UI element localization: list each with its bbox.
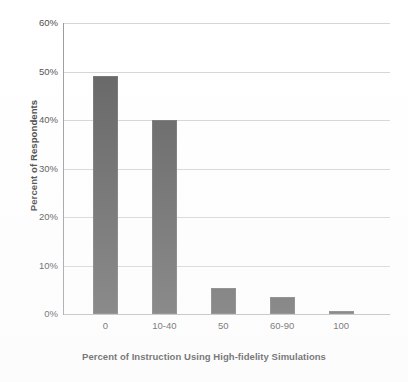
y-axis-tick-labels: 60% 50% 40% 30% 20% 10% 0% (22, 0, 58, 382)
y-axis-line (63, 23, 64, 315)
y-tick-label: 10% (24, 261, 58, 271)
bar (93, 76, 118, 314)
x-axis-title: Percent of Instruction Using High-fideli… (0, 351, 408, 362)
x-tick-label: 60-90 (252, 320, 312, 331)
gridline (63, 72, 390, 73)
x-tick-label: 10-40 (134, 320, 194, 331)
bar (329, 311, 354, 314)
y-tick-label: 40% (24, 115, 58, 125)
x-tick-label: 100 (311, 320, 371, 331)
x-tick-label: 0 (75, 320, 135, 331)
y-tick-label: 50% (24, 67, 58, 77)
bar (211, 288, 236, 314)
x-axis-tick-labels: 010-405060-90100 (63, 320, 390, 336)
gridline (63, 314, 390, 315)
bar (270, 297, 295, 314)
plot-area (63, 23, 390, 314)
y-tick-label: 20% (24, 212, 58, 222)
x-tick-label: 50 (193, 320, 253, 331)
y-tick-label: 60% (24, 18, 58, 28)
y-tick-label: 0% (24, 309, 58, 319)
bar (152, 120, 177, 314)
y-tick-label: 30% (24, 164, 58, 174)
gridline (63, 23, 390, 24)
bar-chart: Percent of Respondents 60% 50% 40% 30% 2… (0, 0, 408, 382)
